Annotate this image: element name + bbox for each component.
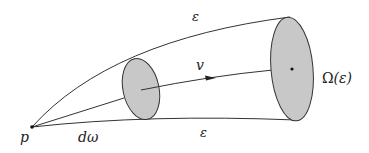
epsilon-top-label: ε [192, 9, 199, 24]
small-cross-section [117, 55, 165, 123]
cone-diagram: ε ε v Ω(ε) p dω [0, 0, 369, 153]
point-p-label: p [20, 129, 29, 145]
velocity-arrowhead [205, 76, 216, 81]
region-label: Ω(ε) [322, 70, 352, 86]
bottom-boundary-curve [32, 118, 296, 127]
center-dot [290, 67, 293, 70]
epsilon-bottom-label: ε [200, 125, 207, 140]
solid-angle-label: dω [78, 129, 99, 145]
velocity-label: v [196, 57, 204, 73]
point-p [30, 125, 34, 129]
